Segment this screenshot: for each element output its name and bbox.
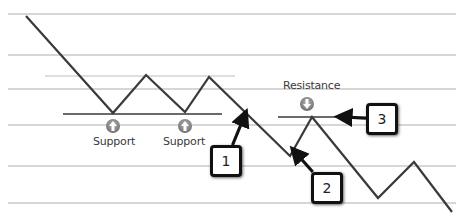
arrow-icon — [343, 117, 366, 118]
callout-3: 3 — [366, 103, 398, 135]
callout-3-number: 3 — [378, 111, 387, 127]
callout-1-number: 1 — [222, 153, 231, 169]
arrow-icon — [296, 153, 313, 172]
resistance-label: Resistance — [283, 79, 340, 92]
support-label-2: Support — [163, 135, 205, 148]
support-resistance-diagram: Support Support Resistance 1 2 3 — [0, 0, 464, 219]
support-label-1: Support — [93, 135, 135, 148]
down-arrow-icon — [300, 97, 314, 111]
arrow-icon — [233, 117, 244, 145]
up-arrow-icon — [106, 119, 120, 133]
up-arrow-icon — [178, 119, 192, 133]
callout-2-number: 2 — [323, 180, 332, 196]
callout-1: 1 — [210, 145, 242, 177]
callout-2: 2 — [311, 172, 343, 204]
